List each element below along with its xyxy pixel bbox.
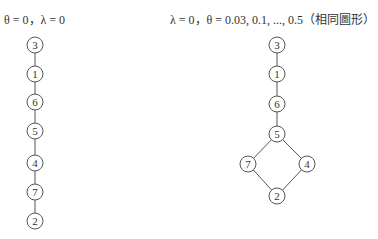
- right-node-2: 2: [269, 188, 285, 204]
- node-label: 5: [32, 125, 38, 137]
- node-label: 3: [274, 39, 280, 51]
- node-label: 1: [32, 68, 38, 80]
- right-node-6: 6: [269, 96, 285, 112]
- node-label: 1: [274, 68, 280, 80]
- right-node-5: 5: [269, 126, 285, 142]
- graph-canvas: 31654723165742: [0, 0, 378, 239]
- node-label: 3: [32, 39, 38, 51]
- left-node-3: 3: [27, 37, 43, 53]
- right-node-3: 3: [269, 37, 285, 53]
- node-label: 4: [32, 157, 38, 169]
- node-label: 7: [245, 158, 251, 170]
- right-node-7: 7: [240, 156, 256, 172]
- node-label: 6: [274, 98, 280, 110]
- right-graph: 3165742: [240, 37, 315, 204]
- node-label: 7: [32, 186, 38, 198]
- node-label: 5: [274, 128, 280, 140]
- node-label: 2: [274, 190, 280, 202]
- left-graph: 3165472: [27, 37, 43, 229]
- left-node-5: 5: [27, 123, 43, 139]
- node-label: 6: [32, 96, 38, 108]
- left-node-2: 2: [27, 213, 43, 229]
- right-node-1: 1: [269, 66, 285, 82]
- left-node-7: 7: [27, 184, 43, 200]
- left-node-6: 6: [27, 94, 43, 110]
- node-label: 4: [304, 158, 310, 170]
- node-label: 2: [32, 215, 38, 227]
- left-node-1: 1: [27, 66, 43, 82]
- right-node-4: 4: [299, 156, 315, 172]
- left-node-4: 4: [27, 155, 43, 171]
